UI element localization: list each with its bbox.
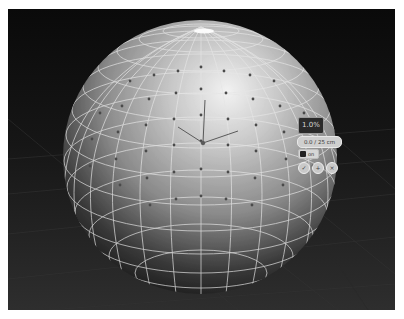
gizmo-origin[interactable]: [201, 141, 205, 145]
measure-field[interactable]: 0.0 / 25 cm: [297, 136, 342, 148]
pole-highlight: [194, 29, 214, 34]
close-icon: ×: [329, 164, 334, 171]
plus-icon: +: [315, 164, 320, 171]
add-button[interactable]: +: [312, 162, 324, 174]
toggle-knob: [300, 151, 306, 157]
value-display[interactable]: 1.0%: [298, 117, 324, 134]
check-icon: ✓: [301, 164, 306, 171]
confirm-button[interactable]: ✓: [298, 162, 310, 174]
floating-tool-panel: 1.0% 0.0 / 25 cm on ✓ + ×: [297, 116, 349, 188]
toggle-switch[interactable]: on: [298, 149, 319, 159]
toggle-label: on: [308, 150, 314, 158]
close-button[interactable]: ×: [326, 162, 338, 174]
3d-viewport[interactable]: 1.0% 0.0 / 25 cm on ✓ + ×: [8, 9, 395, 310]
